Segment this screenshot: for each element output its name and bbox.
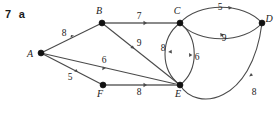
- edge-weight-C-E-left: 8: [161, 43, 166, 53]
- edge-C-D-top: 5: [180, 2, 262, 23]
- figure-canvas: 7a 8 7 9 6 5: [0, 0, 275, 120]
- edge-weight-A-B: 8: [62, 28, 67, 38]
- node-B: B: [96, 5, 105, 26]
- edge-weight-C-D-top: 5: [218, 2, 223, 12]
- node-label-B: B: [96, 5, 102, 16]
- edge-weight-F-E: 8: [137, 87, 142, 97]
- edge-A-F: 5: [41, 53, 103, 85]
- node-label-E: E: [174, 88, 181, 99]
- edge-weight-C-D-bottom: 9: [222, 33, 227, 43]
- edge-B-C: 7: [102, 11, 180, 25]
- edge-C-E-right: 6: [180, 23, 200, 85]
- edge-weight-C-E-right: 6: [195, 52, 200, 62]
- edge-weight-A-F: 5: [68, 72, 73, 82]
- node-F: F: [96, 82, 106, 99]
- edge-weight-E-D-outer: 8: [252, 87, 257, 97]
- node-label-C: C: [174, 5, 181, 16]
- graph-diagram: 8 7 9 6 5 8: [0, 0, 275, 120]
- node-label-F: F: [96, 88, 104, 99]
- edge-A-B: 8: [41, 23, 102, 53]
- edge-weight-B-C: 7: [137, 11, 142, 21]
- edge-weight-A-E: 6: [102, 55, 107, 65]
- node-label-A: A: [26, 48, 34, 59]
- node-D: D: [259, 13, 273, 26]
- node-A: A: [26, 48, 44, 59]
- node-label-D: D: [264, 13, 273, 24]
- edge-weight-B-E: 9: [137, 38, 142, 48]
- edge-C-E-left: 8: [161, 23, 180, 85]
- edge-F-E: 8: [103, 83, 180, 97]
